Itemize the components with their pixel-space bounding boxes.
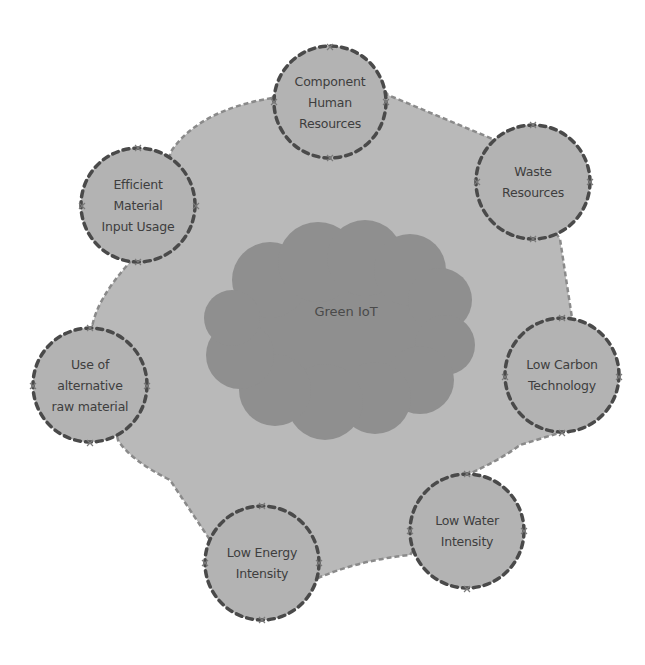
label-line: alternative bbox=[35, 375, 145, 396]
label-line: Component bbox=[275, 71, 385, 92]
label-line: Technology bbox=[507, 375, 617, 396]
label-line: Resources bbox=[275, 113, 385, 134]
node-label-low-water-intensity: Low Water Intensity bbox=[412, 510, 522, 552]
node-label-component-human-resources: Component Human Resources bbox=[275, 71, 385, 134]
label-line: Intensity bbox=[412, 531, 522, 552]
label-line: Material bbox=[83, 195, 193, 216]
cloud-shape bbox=[204, 220, 475, 440]
label-line: Low Energy bbox=[207, 542, 317, 563]
node-label-efficient-material-input-usage: Efficient Material Input Usage bbox=[83, 174, 193, 237]
label-line: Low Water bbox=[412, 510, 522, 531]
label-line: Efficient bbox=[83, 174, 193, 195]
label-line: Use of bbox=[35, 354, 145, 375]
label-line: Human bbox=[275, 92, 385, 113]
label-line: raw material bbox=[35, 396, 145, 417]
label-line: Resources bbox=[478, 182, 588, 203]
label-line: Low Carbon bbox=[507, 354, 617, 375]
node-label-low-energy-intensity: Low Energy Intensity bbox=[207, 542, 317, 584]
label-line: Intensity bbox=[207, 563, 317, 584]
node-label-waste-resources: Waste Resources bbox=[478, 161, 588, 203]
label-line: Waste bbox=[478, 161, 588, 182]
center-label-green-iot: Green IoT bbox=[314, 304, 377, 319]
node-label-use-of-alternative-raw-material: Use of alternative raw material bbox=[35, 354, 145, 417]
node-label-low-carbon-technology: Low Carbon Technology bbox=[507, 354, 617, 396]
label-line: Input Usage bbox=[83, 216, 193, 237]
